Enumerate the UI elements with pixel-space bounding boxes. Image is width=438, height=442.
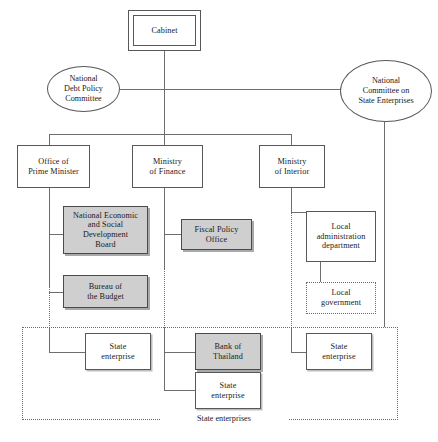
- org-chart-canvas: State enterprises Cabinet National Debt …: [0, 0, 438, 442]
- node-nesdb[interactable]: National Economic and Social Development…: [63, 206, 148, 254]
- connector-moi-to-local-admin: [291, 212, 306, 213]
- node-state-enterprise-center[interactable]: State enterprise: [195, 372, 261, 409]
- node-local-government[interactable]: Local government: [306, 282, 376, 314]
- node-state-enterprise-right[interactable]: State enterprise: [306, 333, 372, 370]
- connector-local-admin-to-local-gov: [320, 262, 321, 282]
- node-cabinet-label: Cabinet: [133, 15, 196, 46]
- node-local-administration-department[interactable]: Local administration department: [306, 211, 376, 262]
- connector-ncse-down: [384, 122, 385, 327]
- node-ministry-of-finance[interactable]: Ministry of Finance: [132, 145, 203, 188]
- connector-opm-to-nesdb: [49, 234, 63, 235]
- node-state-enterprise-left[interactable]: State enterprise: [85, 333, 151, 370]
- node-cabinet[interactable]: Cabinet: [128, 10, 201, 51]
- state-enterprises-group-label: State enterprises: [160, 414, 288, 423]
- connector-committees-horizontal: [120, 89, 352, 90]
- node-ministry-of-interior[interactable]: Ministry of Interior: [259, 145, 325, 188]
- connector-bus-to-mof: [164, 134, 165, 145]
- connector-moi-spine-dotted: [291, 212, 292, 328]
- connector-cabinet-trunk: [164, 51, 165, 135]
- node-national-committee-state-enterprises[interactable]: National Committee on State Enterprises: [340, 60, 432, 122]
- connector-ministries-bus: [49, 134, 292, 135]
- connector-opm-to-bureau: [49, 292, 63, 293]
- connector-moi-spine: [291, 188, 292, 212]
- connector-mof-spine-dotted: [164, 268, 165, 328]
- node-national-debt-policy-committee[interactable]: National Debt Policy Committee: [47, 66, 120, 112]
- connector-opm-spine: [49, 188, 50, 286]
- node-fiscal-policy-office[interactable]: Fiscal Policy Office: [181, 219, 252, 250]
- connector-bus-to-moi: [291, 134, 292, 145]
- node-bank-of-thailand[interactable]: Bank of Thailand: [195, 333, 261, 370]
- node-office-prime-minister[interactable]: Office of Prime Minister: [17, 145, 90, 188]
- connector-bus-to-opm: [49, 134, 50, 145]
- node-bureau-of-the-budget[interactable]: Bureau of the Budget: [63, 275, 148, 308]
- connector-mof-to-fpo: [164, 234, 181, 235]
- connector-mof-spine: [164, 188, 165, 268]
